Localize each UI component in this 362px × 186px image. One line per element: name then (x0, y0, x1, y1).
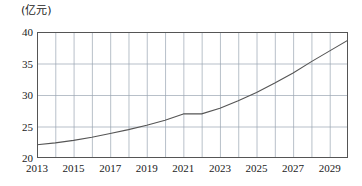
x-axis-tick-label: 2017 (90, 162, 130, 174)
data-series-line (37, 40, 348, 145)
vertical-gridlines (56, 32, 330, 158)
x-axis-tick-label: 2029 (310, 162, 350, 174)
x-axis-tick-label: 2021 (163, 162, 203, 174)
y-axis-tick-label: 30 (3, 90, 33, 101)
y-axis-unit-label: (亿元) (21, 4, 52, 17)
y-axis-tick-label: 40 (3, 27, 33, 38)
x-axis-tick-label: 2019 (127, 162, 167, 174)
x-axis-tick-label: 2027 (273, 162, 313, 174)
line-chart: (亿元) 2025303540 201320152017201920212023… (0, 0, 362, 186)
y-axis-tick-label: 25 (3, 122, 33, 133)
plot-area (37, 32, 348, 158)
horizontal-gridlines (37, 64, 348, 127)
x-axis-tick-label: 2015 (54, 162, 94, 174)
x-axis-tick-label: 2023 (200, 162, 240, 174)
y-axis-tick-label: 35 (3, 59, 33, 70)
x-axis-tick-label: 2025 (237, 162, 277, 174)
plot-svg (37, 32, 348, 158)
x-axis-tick-label: 2013 (17, 162, 57, 174)
